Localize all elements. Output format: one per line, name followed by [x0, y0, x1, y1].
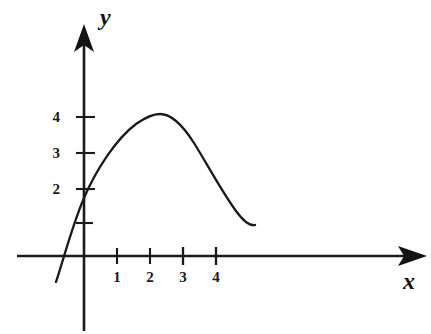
x-tick-label-2: 2 [142, 270, 158, 285]
x-axis-label: x [403, 269, 415, 293]
x-tick-label-4: 4 [208, 270, 224, 285]
x-tick-label-1: 1 [109, 270, 125, 285]
graph-figure: 4 3 2 1 2 3 4 y x [0, 0, 431, 334]
y-tick-label-3: 3 [42, 146, 60, 161]
y-tick-label-2: 2 [42, 182, 60, 197]
x-tick-label-3: 3 [175, 270, 191, 285]
y-axis-label: y [100, 5, 111, 29]
y-tick-label-4: 4 [42, 110, 60, 125]
